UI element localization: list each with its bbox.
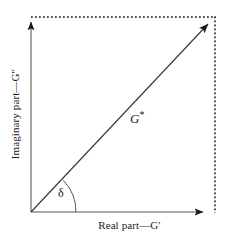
vector-label-g-star: G* [130, 111, 144, 127]
angle-label-delta: δ [58, 186, 64, 201]
x-axis-label: Real part—G′ [0, 219, 237, 231]
vector-label-superscript: * [139, 109, 144, 120]
vector-label-symbol: G [130, 111, 139, 126]
diagram-canvas [0, 0, 237, 239]
angle-arc [63, 180, 76, 212]
x-axis-label-text: Real part—G′ [98, 219, 161, 231]
complex-modulus-diagram: Real part—G′ Imaginary part—G″ G* δ [0, 0, 237, 239]
complex-modulus-vector [31, 24, 208, 212]
y-axis-label-text: Imaginary part—G″ [9, 69, 21, 159]
y-axis-label: Imaginary part—G″ [9, 14, 21, 214]
